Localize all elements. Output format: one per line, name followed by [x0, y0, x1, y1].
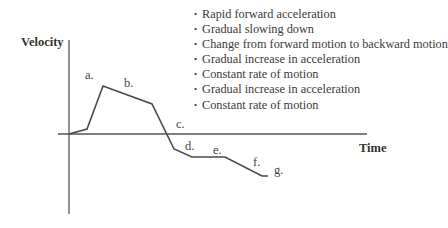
bullet-icon: •: [194, 82, 202, 97]
list-item: •Constant rate of motion: [194, 98, 448, 113]
point-label-g: g.: [274, 163, 283, 178]
point-label-e: e.: [213, 143, 222, 158]
point-label-a: a.: [85, 68, 94, 83]
list-item: •Rapid forward acceleration: [194, 7, 448, 22]
motion-description-list: •Rapid forward acceleration •Gradual slo…: [194, 7, 448, 113]
list-item: •Gradual increase in acceleration: [194, 52, 448, 67]
list-item: •Gradual increase in acceleration: [194, 82, 448, 97]
point-label-f: f.: [253, 155, 260, 170]
point-label-d: d.: [185, 139, 194, 154]
list-item: •Gradual slowing down: [194, 22, 448, 37]
bullet-icon: •: [194, 37, 202, 52]
y-axis-label: Velocity: [21, 35, 64, 50]
bullet-icon: •: [194, 98, 202, 113]
point-label-b: b.: [124, 76, 133, 91]
bullet-icon: •: [194, 52, 202, 67]
bullet-icon: •: [194, 67, 202, 82]
bullet-icon: •: [194, 22, 202, 37]
x-axis-label: Time: [359, 141, 387, 156]
list-item: •Constant rate of motion: [194, 67, 448, 82]
list-item: •Change from forward motion to backward …: [194, 37, 448, 52]
bullet-icon: •: [194, 7, 202, 22]
point-label-c: c.: [176, 117, 185, 132]
